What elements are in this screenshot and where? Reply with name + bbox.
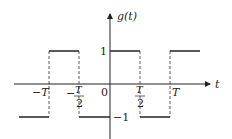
svg-text:−: − [66, 87, 75, 100]
y-tick-neg1: −1 [113, 111, 129, 124]
x-tick-zero: 0 [101, 86, 108, 99]
svg-text:T: T [75, 84, 83, 95]
svg-text:2: 2 [76, 97, 83, 110]
svg-text:2: 2 [137, 97, 144, 110]
x-tick-T: T [172, 86, 181, 99]
function-label: g(t) [117, 10, 137, 23]
x-tick-neg-T: −T [32, 86, 50, 99]
x-tick-T-half: T 2 [135, 84, 145, 110]
y-tick-1: 1 [100, 45, 107, 58]
svg-text:T: T [136, 84, 144, 95]
square-wave-diagram: g(t) t 1 −1 −T − T 2 0 T 2 T [0, 0, 232, 139]
x-axis-label: t [215, 78, 220, 91]
x-tick-neg-T-half: − T 2 [66, 84, 84, 110]
